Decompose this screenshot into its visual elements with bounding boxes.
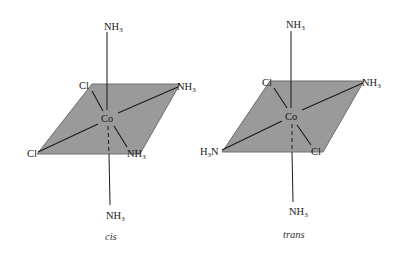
trans-ligand-front-left: H3N <box>200 146 219 159</box>
cis-center-metal: Co <box>101 113 113 124</box>
trans-caption: trans <box>283 229 305 240</box>
trans-ligand-bottom: NH3 <box>289 206 308 219</box>
trans-ligand-back-right: NH3 <box>362 77 381 90</box>
trans-ligand-top: NH3 <box>286 19 305 32</box>
cis-caption: cis <box>105 231 117 242</box>
trans-bond-bottom <box>292 152 293 202</box>
cis-ligand-bottom: NH3 <box>106 210 125 223</box>
trans-isomer: NH3 Cl NH3 Co H3N Cl NH3 trans <box>200 19 381 240</box>
trans-ligand-back-left: Cl <box>262 77 272 88</box>
cis-ligand-front-right: NH3 <box>127 148 146 161</box>
cis-ligand-back-right: NH3 <box>177 81 196 94</box>
octahedral-isomers-diagram: NH3 Cl NH3 Co Cl NH3 NH3 cis NH3 Cl NH3 … <box>0 0 407 259</box>
trans-center-metal: Co <box>285 111 297 122</box>
cis-bond-bottom <box>109 154 110 205</box>
cis-ligand-back-left: Cl <box>79 80 89 91</box>
trans-ligand-front-right: Cl <box>311 146 321 157</box>
cis-ligand-front-left: Cl <box>27 148 37 159</box>
cis-isomer: NH3 Cl NH3 Co Cl NH3 NH3 cis <box>27 21 196 242</box>
